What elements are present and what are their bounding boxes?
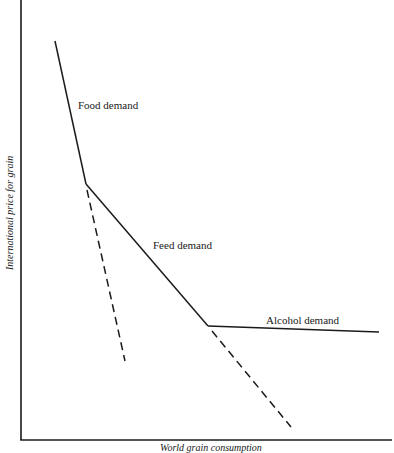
- food-demand-extension-dashed: [87, 190, 125, 361]
- food-demand-line: [55, 41, 86, 184]
- feed-demand-line: [86, 184, 208, 326]
- alcohol-demand-label: Alcohol demand: [266, 314, 339, 326]
- feed-demand-label: Feed demand: [153, 239, 212, 251]
- x-axis-label: World grain consumption: [160, 442, 262, 453]
- feed-demand-extension-dashed: [212, 331, 291, 427]
- alcohol-demand-line: [208, 326, 379, 332]
- food-demand-label: Food demand: [78, 99, 138, 111]
- y-axis-label: International price for grain: [4, 156, 15, 270]
